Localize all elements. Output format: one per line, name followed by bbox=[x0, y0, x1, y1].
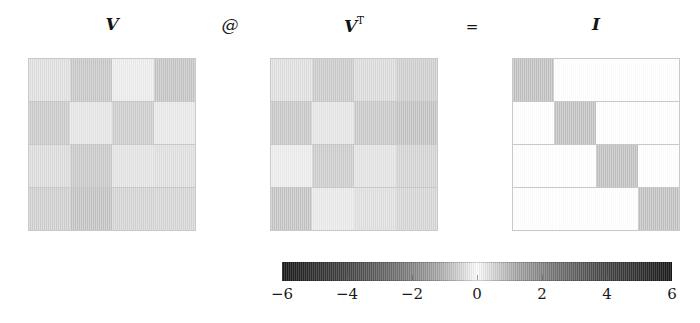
heatmap-cell bbox=[596, 59, 637, 102]
heatmap-cell bbox=[396, 188, 437, 231]
heatmap-cell bbox=[70, 59, 111, 102]
heatmap-cell bbox=[354, 59, 395, 102]
heatmap-cell bbox=[513, 145, 554, 188]
colorbar-tick-label: 0 bbox=[472, 287, 482, 302]
equals-operator: = bbox=[444, 20, 500, 35]
heatmap-matrix-vt bbox=[270, 58, 438, 231]
heatmap-cell bbox=[271, 102, 312, 145]
colorbar-tick-label: −4 bbox=[336, 287, 358, 302]
heatmap-cell bbox=[312, 102, 353, 145]
colorbar-tick-mark bbox=[607, 275, 608, 280]
heatmap-cell bbox=[154, 59, 195, 102]
heatmap-cell bbox=[70, 102, 111, 145]
heatmap-cell bbox=[29, 188, 70, 231]
colorbar-tick-mark bbox=[412, 275, 413, 280]
colorbar-tick-label: 2 bbox=[537, 287, 547, 302]
heatmap-cell bbox=[638, 145, 679, 188]
matmul-operator: @ bbox=[202, 17, 258, 34]
heatmap-cell bbox=[396, 102, 437, 145]
heatmap-cell bbox=[638, 102, 679, 145]
colorbar-tick-label: 6 bbox=[667, 287, 677, 302]
colorbar-tick-mark bbox=[477, 275, 478, 280]
heatmap-cell bbox=[271, 145, 312, 188]
heatmap-cell bbox=[638, 188, 679, 231]
heatmap-cell bbox=[29, 59, 70, 102]
heatmap-cell bbox=[29, 145, 70, 188]
colorbar-tick-label: −6 bbox=[271, 287, 293, 302]
heatmap-cell bbox=[312, 145, 353, 188]
matrix-title-vt-superscript: T bbox=[357, 14, 364, 26]
heatmap-cell bbox=[596, 102, 637, 145]
heatmap-cell bbox=[271, 59, 312, 102]
heatmap-cell bbox=[70, 145, 111, 188]
matrix-title-vt: VT bbox=[270, 16, 438, 35]
heatmap-cell bbox=[354, 102, 395, 145]
heatmap-cell bbox=[513, 59, 554, 102]
heatmap-cell bbox=[154, 102, 195, 145]
heatmap-cell bbox=[554, 145, 595, 188]
heatmap-cell bbox=[596, 145, 637, 188]
heatmap-matrix-v bbox=[28, 58, 196, 231]
heatmap-cell bbox=[29, 102, 70, 145]
heatmap-matrix-identity bbox=[512, 58, 680, 231]
heatmap-cell bbox=[554, 59, 595, 102]
heatmap-cell bbox=[312, 188, 353, 231]
equals-operator-text: = bbox=[466, 18, 479, 36]
colorbar-tick-label: −2 bbox=[401, 287, 423, 302]
heatmap-cell bbox=[513, 102, 554, 145]
heatmap-cell bbox=[554, 188, 595, 231]
matrix-title-v-text: V bbox=[105, 14, 118, 34]
heatmap-cell bbox=[112, 188, 153, 231]
heatmap-cell bbox=[554, 102, 595, 145]
heatmap-cell bbox=[112, 59, 153, 102]
heatmap-cell bbox=[112, 145, 153, 188]
heatmap-cell bbox=[154, 188, 195, 231]
matrix-title-i-text: I bbox=[592, 14, 600, 34]
matrix-title-v: V bbox=[28, 16, 196, 33]
heatmap-cell bbox=[596, 188, 637, 231]
heatmap-cell bbox=[70, 188, 111, 231]
matrix-title-vt-base: V bbox=[344, 16, 357, 36]
heatmap-cell bbox=[396, 145, 437, 188]
matrix-title-i: I bbox=[512, 16, 680, 33]
colorbar-tick-mark bbox=[542, 275, 543, 280]
heatmap-cell bbox=[271, 188, 312, 231]
colorbar-tick-mark bbox=[347, 275, 348, 280]
heatmap-cell bbox=[312, 59, 353, 102]
heatmap-cell bbox=[112, 102, 153, 145]
heatmap-cell bbox=[513, 188, 554, 231]
heatmap-cell bbox=[396, 59, 437, 102]
heatmap-cell bbox=[154, 145, 195, 188]
matrix-multiplication-figure: V @ VT = I −6−4−20246 bbox=[0, 0, 700, 323]
heatmap-cell bbox=[354, 145, 395, 188]
colorbar-tick-label: 4 bbox=[602, 287, 612, 302]
heatmap-cell bbox=[354, 188, 395, 231]
matmul-operator-text: @ bbox=[222, 15, 239, 35]
heatmap-cell bbox=[638, 59, 679, 102]
